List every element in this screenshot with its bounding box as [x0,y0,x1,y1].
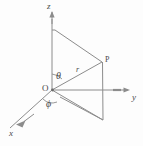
theta-label: θ [56,71,61,81]
phi-label: ϕ [46,99,51,109]
radius-label: r [76,66,79,74]
point-p-label: P [105,56,109,64]
vertical-drop-line [103,62,104,120]
z-axis-label: z [47,2,51,11]
x-axis-label: x [9,129,13,138]
y-axis [52,88,130,93]
coordinate-axes-drawing [0,0,143,146]
y-axis-label: y [132,93,136,102]
spherical-coordinates-figure: z y x O P r θ ϕ [0,0,143,146]
y-axis-arrowhead-icon [124,88,131,93]
upper-construction-triangle [52,30,102,62]
x-axis [10,90,52,128]
z-axis [49,11,54,90]
origin-dot [51,89,54,92]
xy-plane-projection-triangle [52,90,103,120]
z-axis-arrowhead-icon [49,11,54,18]
origin-label: O [42,84,49,93]
